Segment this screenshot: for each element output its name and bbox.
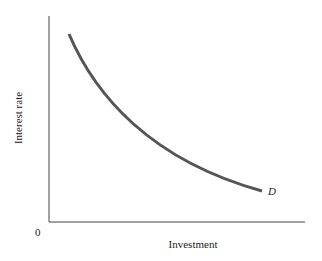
investment-demand-chart: Interest rate Investment 0 D (0, 0, 322, 261)
chart-canvas (0, 0, 322, 261)
y-axis-label: Interest rate (12, 92, 24, 144)
origin-label: 0 (35, 226, 41, 238)
x-axis-label: Investment (169, 238, 218, 250)
curve-label-d: D (268, 185, 276, 197)
demand-curve-d (69, 34, 262, 191)
